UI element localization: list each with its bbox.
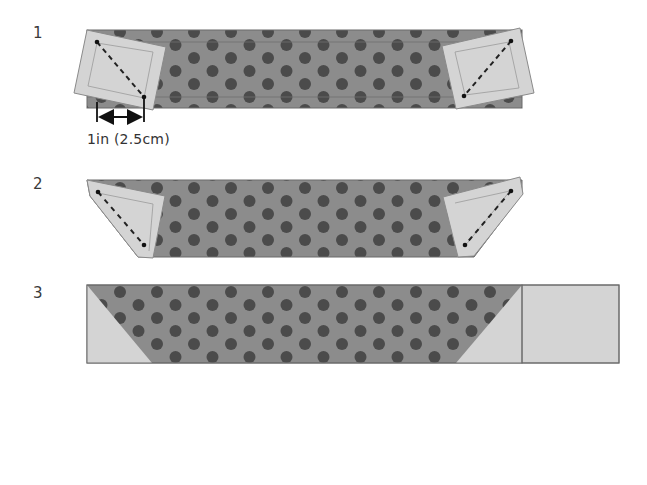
attached-square [522,285,619,363]
step-1-figure [74,28,534,122]
finished-strip [87,285,522,363]
right-stitch-start-dot [509,39,514,44]
right-fold-dot-bottom [463,243,468,248]
left-stitch-start-dot [95,40,100,45]
step-2-figure [87,177,523,258]
right-fold-dot-top [509,189,514,194]
left-fold-dot-bottom [142,243,147,248]
diagram-canvas [0,0,647,485]
right-stitch-end-dot [462,94,467,99]
step-3-figure [87,285,619,363]
left-fold-dot-top [96,190,101,195]
